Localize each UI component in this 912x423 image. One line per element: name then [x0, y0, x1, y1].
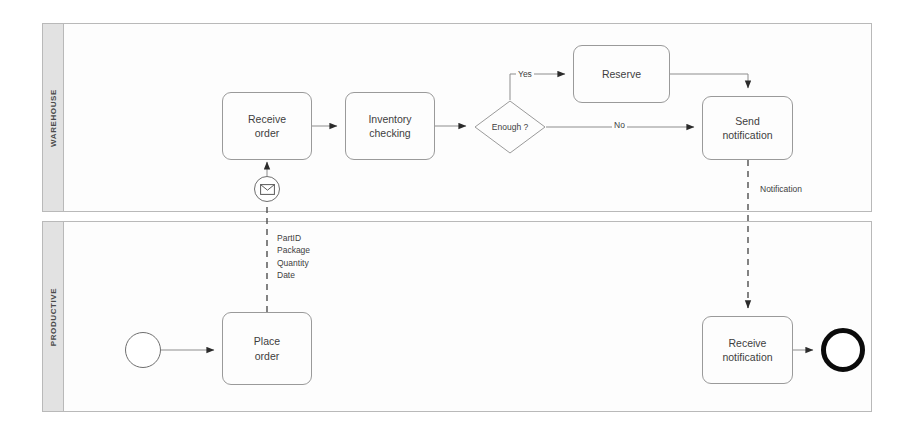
task-label-line1: Inventory	[368, 113, 411, 125]
flow-label-notification: Notification	[758, 184, 804, 194]
task-label-line2: order	[255, 350, 280, 362]
task-reserve[interactable]: Reserve	[573, 45, 670, 103]
payload-item: PartID	[277, 232, 310, 244]
task-label-line2: notification	[722, 351, 772, 363]
task-label: Place order	[254, 334, 280, 362]
task-place-order[interactable]: Place order	[222, 312, 312, 385]
task-label: Receive notification	[722, 336, 772, 364]
task-label: Receive order	[248, 112, 286, 140]
task-label-line1: Receive	[248, 113, 286, 125]
task-label-line2: notification	[722, 129, 772, 141]
task-inventory-checking[interactable]: Inventory checking	[345, 92, 435, 160]
task-receive-notification[interactable]: Receive notification	[702, 316, 793, 384]
task-label: Send notification	[722, 114, 772, 142]
start-event[interactable]	[125, 332, 161, 368]
task-label-line1: Place	[254, 335, 280, 347]
envelope-icon	[260, 184, 275, 195]
task-label: Inventory checking	[368, 112, 411, 140]
flow-label-no: No	[612, 120, 627, 130]
payload-item: Quantity	[277, 257, 310, 269]
task-send-notification[interactable]: Send notification	[702, 96, 793, 160]
flow-reserve-to-send[interactable]	[670, 74, 748, 88]
gateway-enough[interactable]: Enough ?	[474, 100, 546, 154]
task-label-line1: Send	[735, 115, 760, 127]
task-label-line1: Receive	[729, 337, 767, 349]
payload-item: Date	[277, 269, 310, 281]
message-payload-list: PartID Package Quantity Date	[277, 232, 310, 281]
payload-item: Package	[277, 244, 310, 256]
task-label: Reserve	[602, 67, 641, 81]
end-event[interactable]	[821, 328, 865, 372]
flow-label-yes: Yes	[516, 69, 534, 79]
message-catch-event[interactable]	[254, 176, 280, 202]
task-label-line2: order	[255, 127, 280, 139]
bpmn-diagram-canvas: WAREHOUSE PRODUCTIVE	[0, 0, 912, 423]
gateway-diamond-icon	[474, 100, 546, 154]
task-receive-order[interactable]: Receive order	[222, 92, 312, 160]
task-label-line2: checking	[369, 127, 410, 139]
